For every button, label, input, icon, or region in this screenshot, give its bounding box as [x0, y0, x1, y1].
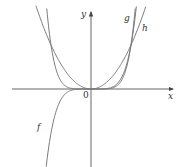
curve-label-f: f	[37, 123, 40, 132]
origin-label: 0	[83, 91, 89, 100]
curve-label-g: g	[124, 14, 130, 23]
curve-label-h: h	[142, 24, 148, 33]
x-axis-label: x	[168, 92, 173, 101]
y-axis-label: y	[81, 10, 86, 19]
function-graph	[0, 0, 182, 167]
